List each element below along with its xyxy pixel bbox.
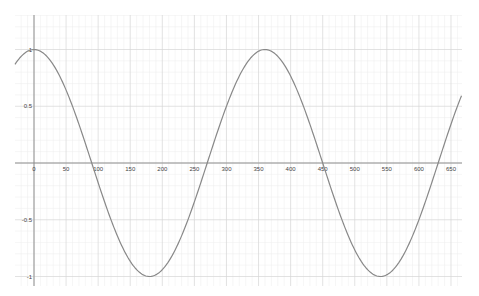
x-tick-label: 550 xyxy=(382,166,393,172)
minor-grid xyxy=(15,15,462,286)
y-tick-label: -0.5 xyxy=(22,217,33,223)
x-tick-label: 0 xyxy=(32,166,36,172)
major-grid xyxy=(15,15,462,286)
x-tick-label: 450 xyxy=(318,166,329,172)
x-tick-label: 150 xyxy=(125,166,136,172)
x-tick-label: 500 xyxy=(350,166,361,172)
cosine-graph: 050100150200250300350400450500550600650 … xyxy=(0,0,479,296)
x-tick-label: 400 xyxy=(286,166,297,172)
x-tick-label: 300 xyxy=(221,166,232,172)
x-tick-label: 350 xyxy=(254,166,265,172)
x-tick-label: 200 xyxy=(157,166,168,172)
y-tick-label: -1 xyxy=(27,274,33,280)
x-tick-label: 650 xyxy=(446,166,457,172)
y-tick-label: 0.5 xyxy=(24,103,33,109)
x-tick-label: 600 xyxy=(414,166,425,172)
x-tick-label: 50 xyxy=(63,166,70,172)
axes xyxy=(15,15,462,286)
x-tick-label: 250 xyxy=(189,166,200,172)
